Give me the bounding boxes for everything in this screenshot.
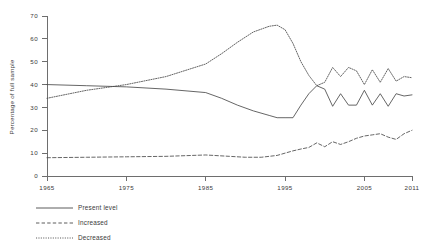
legend-label-decreased: Decreased [78, 234, 111, 241]
y-axis-ticks: 010203040506070 [30, 12, 47, 179]
legend-label-present-level: Present level [78, 204, 118, 211]
y-axis-title-label: Percentage of full sample [8, 59, 15, 134]
line-chart: Percentage of full sample 01020304050607… [0, 0, 427, 245]
x-tick-label: 2011 [405, 184, 420, 191]
series-layer [47, 25, 412, 158]
x-tick-label: 2005 [357, 184, 373, 191]
x-axis-ticks: 196519751985199520052011 [39, 176, 419, 191]
legend-label-increased: Increased [78, 219, 108, 226]
y-tick-label: 70 [30, 12, 38, 19]
chart-legend: Present levelIncreasedDecreased [36, 204, 118, 241]
y-tick-label: 30 [30, 104, 38, 111]
x-tick-label: 1995 [277, 184, 293, 191]
series-line-increased [47, 130, 412, 157]
y-tick-label: 0 [34, 172, 38, 179]
series-line-present-level [47, 85, 412, 118]
y-axis-title: Percentage of full sample [8, 59, 15, 134]
y-tick-label: 40 [30, 81, 38, 88]
x-tick-label: 1975 [119, 184, 135, 191]
x-tick-label: 1965 [39, 184, 55, 191]
x-tick-label: 1985 [198, 184, 214, 191]
y-tick-label: 50 [30, 58, 38, 65]
chart-figure: Percentage of full sample 01020304050607… [0, 0, 427, 245]
y-tick-label: 10 [30, 149, 38, 156]
y-tick-label: 60 [30, 35, 38, 42]
y-tick-label: 20 [30, 126, 38, 133]
series-line-decreased [47, 25, 412, 98]
